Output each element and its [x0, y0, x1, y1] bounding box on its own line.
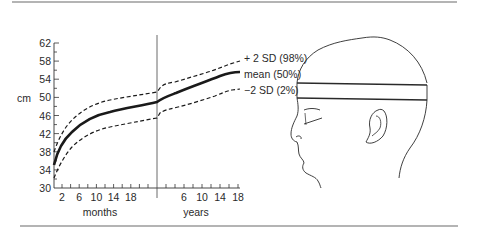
x-tick-label: 6 — [181, 191, 187, 203]
closed-eye — [304, 118, 322, 124]
x-tick-label: 14 — [108, 191, 120, 203]
y-tick-label: 62 — [39, 37, 51, 49]
x-tick-label: 10 — [91, 191, 103, 203]
mean-curve — [54, 72, 240, 165]
x-tick-label: 10 — [196, 191, 208, 203]
y-axis-unit: cm — [17, 92, 31, 104]
back-of-head — [399, 100, 427, 178]
y-tick-label: 30 — [39, 182, 51, 194]
x-tick-label: 18 — [232, 191, 244, 203]
nostril — [296, 136, 301, 139]
legend-mean: mean (50%) — [244, 68, 301, 80]
head-circumference-figure: 62 58 54 50 46 42 38 34 30 cm — [0, 0, 477, 237]
y-tick-label: 42 — [39, 128, 51, 140]
x-axis-title-months: months — [83, 206, 117, 218]
ear — [366, 109, 387, 143]
measuring-band-top — [297, 83, 427, 85]
measuring-band-bottom — [297, 98, 427, 100]
x-axis-title-years: years — [183, 206, 209, 218]
y-tick-label: 58 — [39, 55, 51, 67]
x-tick-label: 6 — [76, 191, 82, 203]
y-tick-label: 34 — [39, 164, 51, 176]
y-axis: 62 58 54 50 46 42 38 34 30 cm — [17, 37, 59, 194]
x-tick-label: 18 — [125, 191, 137, 203]
x-tick-label: 14 — [214, 191, 226, 203]
eyebrow — [304, 109, 320, 111]
y-tick-label: 54 — [39, 73, 51, 85]
legend-plus-2sd: + 2 SD (98%) — [244, 52, 307, 64]
x-axis: 2 6 10 14 18 6 10 14 18 months years — [54, 35, 244, 218]
growth-curves — [54, 61, 240, 178]
x-tick-label: 2 — [59, 191, 65, 203]
minus-2sd-curve — [54, 89, 240, 178]
y-tick-label: 50 — [39, 91, 51, 103]
face-profile — [291, 98, 321, 188]
y-tick-label: 38 — [39, 146, 51, 158]
skull-outline — [297, 37, 427, 83]
y-tick-label: 46 — [39, 110, 51, 122]
infant-head-illustration — [291, 37, 427, 188]
legend-minus-2sd: −2 SD (2%) — [244, 84, 299, 96]
